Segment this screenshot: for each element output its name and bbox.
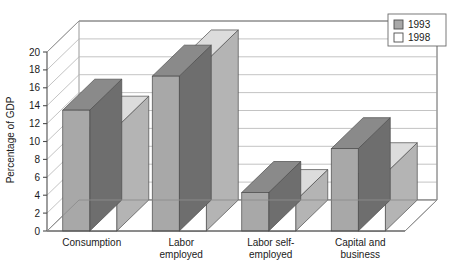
x-category-label: Labor xyxy=(168,237,194,248)
y-tick-label: 14 xyxy=(29,100,41,111)
x-axis-category-labels: ConsumptionLaboremployedLabor self-emplo… xyxy=(62,237,385,260)
bar-1993-labor-employed xyxy=(152,45,211,231)
legend-label-1998: 1998 xyxy=(408,32,431,43)
bar-chart-3d: 02468101214161820 ConsumptionLaboremploy… xyxy=(0,0,453,275)
legend-swatch-1993 xyxy=(394,20,403,29)
y-tick-label: 16 xyxy=(29,82,41,93)
chart-legend: 19931998 xyxy=(388,14,446,46)
gridline-connector xyxy=(47,57,79,88)
top-left-edge xyxy=(47,21,79,52)
y-tick-label: 10 xyxy=(29,136,41,147)
bar-front-face xyxy=(63,110,90,231)
y-tick-label: 20 xyxy=(29,47,41,58)
x-category-label: employed xyxy=(249,249,292,260)
x-category-label: employed xyxy=(160,249,203,260)
y-tick-label: 6 xyxy=(34,172,40,183)
bar-side-face xyxy=(179,45,211,231)
y-tick-label: 0 xyxy=(34,226,40,237)
x-category-label: business xyxy=(341,249,380,260)
x-category-label: Consumption xyxy=(62,237,121,248)
y-tick-label: 18 xyxy=(29,64,41,75)
x-category-label: Labor self- xyxy=(247,237,294,248)
y-axis-title: Percentage of GDP xyxy=(5,96,16,183)
x-category-label: Capital and xyxy=(335,237,386,248)
chart-container: 02468101214161820 ConsumptionLaboremploy… xyxy=(0,0,453,275)
y-tick-label: 4 xyxy=(34,190,40,201)
y-axis-tick-labels: 02468101214161820 xyxy=(29,47,47,237)
y-tick-label: 12 xyxy=(29,118,41,129)
bar-front-face xyxy=(331,149,358,231)
gridline-connector xyxy=(47,39,79,70)
bar-front-face xyxy=(152,76,179,231)
bar-front-face xyxy=(242,193,269,231)
y-tick-label: 8 xyxy=(34,154,40,165)
legend-swatch-1998 xyxy=(394,33,403,42)
y-tick-label: 2 xyxy=(34,208,40,219)
legend-label-1993: 1993 xyxy=(408,19,431,30)
bar-1993-consumption xyxy=(63,79,122,231)
